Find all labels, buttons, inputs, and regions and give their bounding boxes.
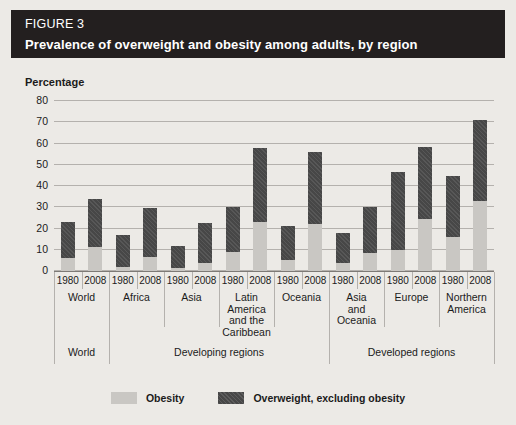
bar-segment-overweight [446,176,460,237]
bar-asia-1980 [171,246,185,272]
bar-segment-obesity [61,258,75,271]
bar-segment-overweight [226,207,240,252]
super-group-separator [109,272,110,364]
bar-segment-obesity [446,237,460,271]
bar-latin-america-and-the-caribbean-1980 [226,207,240,271]
bar-segment-overweight [253,148,267,222]
group-label-latin-america-and-the-caribbean: LatinAmericaand theCaribbean [219,292,274,338]
bar-segment-obesity [226,252,240,271]
overweight-swatch-icon [218,392,244,404]
group-separator [164,272,165,327]
bar-world-1980 [61,222,75,271]
group-label-asia: Asia [164,292,219,304]
year-separator [192,272,193,289]
super-group-label-world: World [54,346,109,358]
year-label-2-2008: 2008 [192,272,220,289]
bar-segment-overweight [116,235,130,267]
legend-label-overweight: Overweight, excluding obesity [253,392,405,404]
super-group-separator [494,272,495,364]
year-label-2-1980: 1980 [164,272,192,289]
year-label-6-1980: 1980 [384,272,412,289]
super-group-label-developed-regions: Developed regions [329,346,494,358]
bar-europe-1980 [391,172,405,271]
chart-panel: Percentage 01020304050607080 19802008198… [11,58,505,414]
bar-segment-overweight [198,223,212,262]
bar-asia-and-oceania-1980 [336,233,350,271]
year-label-0-1980: 1980 [54,272,82,289]
bar-segment-obesity [253,222,267,271]
chart-legend: Obesity Overweight, excluding obesity [11,382,505,414]
year-label-4-2008: 2008 [302,272,330,289]
bar-segment-obesity [363,253,377,271]
bar-segment-obesity [418,219,432,271]
bar-segment-obesity [143,257,157,271]
legend-item-obesity: Obesity [111,392,185,404]
bar-segment-overweight [363,207,377,253]
bars-layer [54,101,494,271]
bar-segment-overweight [143,208,157,257]
year-label-1-1980: 1980 [109,272,137,289]
bar-segment-obesity [281,260,295,271]
legend-item-overweight: Overweight, excluding obesity [218,392,405,404]
year-label-5-2008: 2008 [357,272,385,289]
group-label-oceania: Oceania [274,292,329,304]
group-label-world: World [54,292,109,304]
bar-segment-obesity [88,247,102,271]
bar-segment-overweight [61,222,75,258]
group-separator [274,272,275,327]
bar-africa-2008 [143,208,157,271]
y-axis-title: Percentage [25,76,84,88]
bar-segment-overweight [171,246,185,268]
year-separator [467,272,468,289]
group-separator [439,272,440,327]
year-label-0-2008: 2008 [82,272,110,289]
figure-title-bar: FIGURE 3 Prevalence of overweight and ob… [11,10,505,58]
bar-asia-2008 [198,223,212,271]
bar-segment-overweight [308,152,322,224]
year-separator [137,272,138,289]
bar-europe-2008 [418,147,432,271]
bar-segment-overweight [88,199,102,247]
bar-oceania-2008 [308,152,322,271]
figure-number: FIGURE 3 [25,16,491,33]
bar-segment-overweight [336,233,350,263]
bar-oceania-1980 [281,226,295,271]
y-tick-label-40: 40 [36,179,48,191]
x-axis-area: 1980200819802008198020081980200819802008… [54,271,494,371]
super-group-separator [329,272,330,364]
bar-segment-obesity [473,201,487,271]
bar-segment-obesity [308,224,322,271]
bar-northern-america-1980 [446,176,460,271]
y-tick-label-50: 50 [36,158,48,170]
bar-world-2008 [88,199,102,271]
year-label-4-1980: 1980 [274,272,302,289]
year-separator [82,272,83,289]
bar-northern-america-2008 [473,120,487,271]
figure-container: FIGURE 3 Prevalence of overweight and ob… [0,0,516,425]
bar-segment-obesity [391,250,405,271]
year-label-7-2008: 2008 [467,272,495,289]
year-separator [302,272,303,289]
bar-latin-america-and-the-caribbean-2008 [253,148,267,271]
super-group-label-developing-regions: Developing regions [109,346,329,358]
year-separator [412,272,413,289]
obesity-swatch-icon [111,392,137,404]
super-group-separator [54,272,55,364]
year-label-1-2008: 2008 [137,272,165,289]
year-label-5-1980: 1980 [329,272,357,289]
y-tick-label-70: 70 [36,115,48,127]
bar-segment-overweight [281,226,295,260]
y-tick-label-0: 0 [42,264,48,276]
plot-area: 01020304050607080 [54,101,494,271]
bar-segment-overweight [473,120,487,201]
year-label-3-1980: 1980 [219,272,247,289]
group-label-africa: Africa [109,292,164,304]
group-separator [384,272,385,327]
year-separator [247,272,248,289]
group-label-asia-and-oceania: AsiaandOceania [329,292,384,327]
bar-asia-and-oceania-2008 [363,207,377,271]
y-tick-label-30: 30 [36,200,48,212]
group-label-europe: Europe [384,292,439,304]
group-separator [219,272,220,327]
group-label-northern-america: NorthernAmerica [439,292,494,315]
